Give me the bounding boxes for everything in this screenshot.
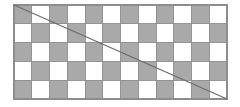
checkerboard-grid-diagram [0, 0, 240, 107]
checker-cell-filled [14, 80, 32, 99]
checker-cell-empty [121, 24, 139, 43]
checker-cell-filled [138, 24, 156, 43]
checker-cell-filled [14, 5, 32, 24]
checker-cell-empty [67, 80, 85, 99]
checker-cell-filled [50, 80, 68, 99]
checker-cell-empty [192, 24, 210, 43]
checker-cell-empty [174, 5, 192, 24]
checker-cell-filled [103, 24, 121, 43]
checker-cell-empty [174, 43, 192, 62]
checker-cell-filled [67, 61, 85, 80]
checker-cell-empty [50, 61, 68, 80]
checker-cell-filled [209, 61, 227, 80]
checker-cell-filled [192, 43, 210, 62]
checker-cell-filled [103, 61, 121, 80]
checker-cell-empty [103, 80, 121, 99]
checker-cell-empty [32, 80, 50, 99]
checker-cell-empty [121, 61, 139, 80]
checker-cell-empty [192, 61, 210, 80]
checker-cell-filled [85, 5, 103, 24]
checker-cell-filled [50, 5, 68, 24]
checker-cell-filled [121, 80, 139, 99]
checker-cell-filled [209, 24, 227, 43]
checker-cell-empty [103, 5, 121, 24]
checker-cell-filled [32, 61, 50, 80]
checker-cell-empty [209, 43, 227, 62]
checker-cell-filled [32, 24, 50, 43]
checker-cell-filled [85, 80, 103, 99]
checker-cell-filled [156, 80, 174, 99]
checker-cell-empty [14, 24, 32, 43]
checker-cell-empty [85, 61, 103, 80]
checker-cell-empty [209, 5, 227, 24]
checker-cell-filled [14, 43, 32, 62]
checker-cell-filled [156, 5, 174, 24]
checker-cell-empty [156, 61, 174, 80]
checker-cell-filled [50, 43, 68, 62]
checker-cell-empty [67, 5, 85, 24]
checker-cell-filled [174, 24, 192, 43]
checker-cell-filled [156, 43, 174, 62]
checker-cell-empty [209, 80, 227, 99]
checker-cell-filled [121, 5, 139, 24]
checker-cell-filled [85, 43, 103, 62]
checker-cell-empty [14, 61, 32, 80]
checker-cell-empty [138, 43, 156, 62]
checker-cell-empty [138, 80, 156, 99]
figure-root [0, 0, 240, 107]
checker-cell-empty [67, 43, 85, 62]
checker-cell-empty [138, 5, 156, 24]
checker-cell-filled [67, 24, 85, 43]
checker-cell-empty [174, 80, 192, 99]
checker-cell-empty [32, 43, 50, 62]
checker-cell-empty [156, 24, 174, 43]
checker-cell-filled [192, 5, 210, 24]
